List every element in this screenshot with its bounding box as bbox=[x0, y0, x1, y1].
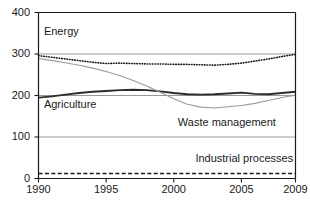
annotation-industrial-processes: Industrial processes bbox=[195, 152, 293, 164]
annotation-energy: Energy bbox=[44, 25, 79, 37]
series-line-energy bbox=[39, 54, 296, 65]
y-tick-label-200: 200 bbox=[0, 89, 30, 101]
x-tick-label-2005: 2005 bbox=[219, 183, 263, 195]
annotation-waste-management: Waste management bbox=[178, 116, 276, 128]
series-line-agriculture bbox=[39, 90, 296, 98]
x-tick-label-2000: 2000 bbox=[152, 183, 196, 195]
x-tick-label-2009: 2009 bbox=[274, 183, 310, 195]
x-tick-label-1990: 1990 bbox=[17, 183, 61, 195]
line-chart: 0100200300400 19901995200020052009 Energ… bbox=[0, 0, 309, 204]
y-tick-label-100: 100 bbox=[0, 130, 30, 142]
y-tick-label-400: 400 bbox=[0, 6, 30, 18]
y-tick-label-300: 300 bbox=[0, 47, 30, 59]
annotation-agriculture: Agriculture bbox=[44, 98, 97, 110]
x-tick-label-1995: 1995 bbox=[84, 183, 128, 195]
